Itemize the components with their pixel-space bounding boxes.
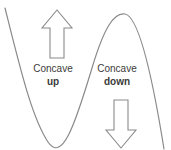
label-concave-up-line1: Concave (26, 63, 80, 75)
label-concave-up-line2: up (26, 76, 80, 88)
label-concave-up: Concave up (26, 63, 80, 88)
arrow-up-outline-icon (42, 10, 72, 58)
label-concave-down-line2: down (86, 76, 148, 88)
concavity-figure: Concave up Concave down (0, 0, 171, 150)
label-concave-down: Concave down (86, 63, 148, 88)
arrow-down-outline-icon (106, 100, 136, 148)
label-concave-down-line1: Concave (86, 63, 148, 75)
